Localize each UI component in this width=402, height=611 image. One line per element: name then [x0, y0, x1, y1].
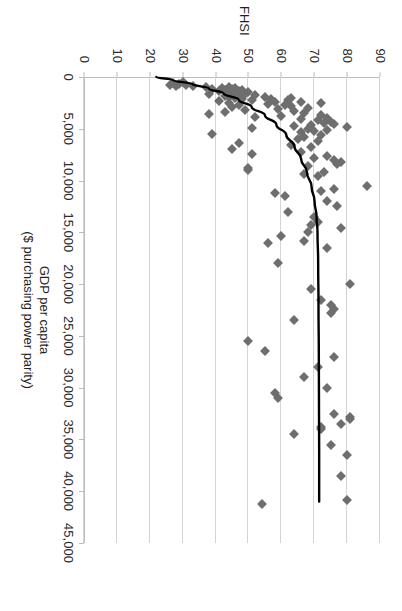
- data-point: [273, 258, 283, 268]
- data-point: [290, 106, 300, 116]
- y-axis-tick-label: 60: [274, 49, 289, 63]
- data-point: [244, 336, 254, 346]
- x-axis-line: [84, 77, 85, 543]
- y-axis-tick-label: 30: [175, 49, 190, 63]
- y-axis-tick-label: 40: [208, 49, 223, 63]
- x-axis-title: GDP per capita ($ purchasing power parit…: [20, 77, 52, 543]
- x-axis-tick-label: 20,000: [61, 264, 76, 304]
- data-point: [204, 109, 214, 119]
- x-axis-tick-mark: [79, 284, 84, 285]
- data-point: [322, 196, 332, 206]
- data-point: [276, 111, 286, 121]
- plot-area: [84, 77, 380, 543]
- data-point: [316, 98, 326, 108]
- x-axis-tick-mark: [79, 77, 84, 78]
- y-axis-tick-mark: [215, 72, 216, 77]
- data-point: [342, 450, 352, 460]
- x-axis-tick-label: 15,000: [61, 212, 76, 252]
- data-point: [283, 207, 293, 217]
- data-point: [290, 315, 300, 325]
- data-point: [273, 393, 283, 403]
- gridline: [83, 77, 84, 543]
- data-point: [257, 499, 267, 509]
- x-axis-tick-mark: [79, 491, 84, 492]
- data-point: [260, 346, 270, 356]
- y-axis-tick-mark: [149, 72, 150, 77]
- data-point: [342, 495, 352, 505]
- data-point: [322, 383, 332, 393]
- data-point: [336, 471, 346, 481]
- data-point: [299, 372, 309, 382]
- x-axis-tick-label: 35,000: [61, 420, 76, 460]
- x-axis-tick-label: 5,000: [61, 112, 76, 145]
- x-axis-tick-label: 40,000: [61, 471, 76, 511]
- y-axis-tick-mark: [347, 72, 348, 77]
- data-point: [250, 112, 260, 122]
- x-axis-tick-mark: [79, 181, 84, 182]
- x-axis-tick-mark: [79, 129, 84, 130]
- data-point: [336, 419, 346, 429]
- x-axis-tick-label: 45,000: [61, 523, 76, 563]
- y-axis-tick-mark: [248, 72, 249, 77]
- y-axis-tick-label: 0: [77, 56, 92, 63]
- data-point: [270, 188, 280, 198]
- data-point: [207, 129, 217, 139]
- rotated-chart-wrapper: 0102030405060708090 05,00010,00015,00020…: [0, 0, 402, 611]
- data-point: [263, 238, 273, 248]
- data-point: [276, 232, 286, 242]
- data-point: [316, 186, 326, 196]
- y-axis-tick-label: 80: [340, 49, 355, 63]
- y-axis-tick-mark: [182, 72, 183, 77]
- x-axis-tick-mark: [79, 388, 84, 389]
- gridline: [182, 77, 183, 543]
- data-point: [227, 145, 237, 155]
- y-axis-tick-mark: [314, 72, 315, 77]
- data-point: [326, 440, 336, 450]
- data-point: [329, 184, 339, 194]
- x-axis-tick-mark: [79, 439, 84, 440]
- y-axis-tick-label: 50: [241, 49, 256, 63]
- data-point: [299, 236, 309, 246]
- data-point: [362, 181, 372, 191]
- gridline: [379, 77, 380, 543]
- gridline: [346, 77, 347, 543]
- y-axis-tick-label: 10: [109, 49, 124, 63]
- x-axis-tick-mark: [79, 232, 84, 233]
- gridline: [149, 77, 150, 543]
- x-axis-tick-label: 10,000: [61, 161, 76, 201]
- data-point: [316, 295, 326, 305]
- scatter-chart: 0102030405060708090 05,00010,00015,00020…: [0, 0, 402, 611]
- data-point: [286, 140, 296, 150]
- x-axis-tick-label: 25,000: [61, 316, 76, 356]
- data-point: [329, 352, 339, 362]
- x-axis-title-line2: ($ purchasing power parity): [20, 77, 36, 543]
- y-axis-tick-label: 20: [142, 49, 157, 63]
- gridline: [116, 77, 117, 543]
- gridline: [247, 77, 248, 543]
- x-axis-title-line1: GDP per capita: [37, 266, 52, 355]
- x-axis-tick-mark: [79, 543, 84, 544]
- data-point: [336, 223, 346, 233]
- data-point: [332, 201, 342, 211]
- x-axis-tick-label: 0: [61, 73, 76, 80]
- data-point: [342, 122, 352, 132]
- y-axis-tick-label: 70: [307, 49, 322, 63]
- data-point: [306, 284, 316, 294]
- x-axis-tick-label: 30,000: [61, 368, 76, 408]
- y-axis-tick-label: 90: [373, 49, 388, 63]
- gridline: [215, 77, 216, 543]
- y-axis-tick-mark: [281, 72, 282, 77]
- gridline: [280, 77, 281, 543]
- y-axis-title: FHSI: [237, 6, 252, 36]
- x-axis-tick-mark: [79, 336, 84, 337]
- y-axis-tick-mark: [380, 72, 381, 77]
- data-point: [329, 409, 339, 419]
- data-point: [240, 105, 250, 115]
- data-point: [322, 243, 332, 253]
- y-axis-line: [84, 77, 380, 78]
- data-point: [309, 153, 319, 163]
- data-point: [306, 142, 316, 152]
- data-point: [290, 429, 300, 439]
- y-axis-tick-mark: [116, 72, 117, 77]
- data-point: [296, 147, 306, 157]
